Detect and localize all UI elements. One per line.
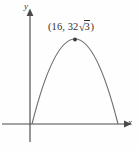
x-axis-label: x: [128, 118, 132, 127]
annotation-radicand: 3: [84, 20, 90, 33]
vertex-point-marker: [73, 38, 77, 42]
annotation-close-paren: ): [90, 21, 94, 32]
parabola-figure: y x (16, 32√3): [0, 0, 139, 151]
parabola-curve: [32, 39, 118, 124]
y-axis-label: y: [24, 2, 28, 11]
annotation-x-value: 16: [52, 21, 63, 32]
annotation-coefficient: 32: [68, 21, 79, 32]
vertex-coordinate-label: (16, 32√3): [48, 20, 94, 33]
annotation-radical-group: √3: [78, 20, 90, 33]
